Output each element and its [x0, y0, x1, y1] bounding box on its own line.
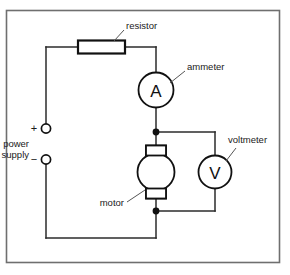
leader-line-motor	[127, 190, 145, 202]
power-supply-minus-sign: −	[31, 153, 37, 165]
leader-line-voltmeter	[226, 148, 236, 161]
resistor-symbol	[78, 41, 125, 54]
label-power-supply-line1: power	[3, 138, 29, 149]
power-supply-negative-terminal	[41, 155, 50, 164]
label-motor: motor	[100, 197, 124, 208]
motor-terminal-top-overlay	[146, 146, 166, 156]
label-voltmeter: voltmeter	[228, 134, 267, 145]
leader-line-ammeter	[170, 71, 185, 83]
ammeter-letter: A	[150, 82, 162, 101]
circuit-diagram-canvas: A V + − resistor ammeter voltmeter moto	[0, 0, 290, 275]
voltmeter-letter: V	[209, 164, 221, 183]
motor-terminal-bottom-overlay	[146, 189, 166, 199]
circuit-wires	[46, 47, 215, 238]
label-resistor: resistor	[126, 20, 157, 31]
junction-dot-bottom	[153, 208, 160, 215]
junction-dot-top	[153, 129, 160, 136]
label-power-supply-line2: supply	[2, 149, 30, 160]
label-ammeter: ammeter	[187, 61, 224, 72]
power-supply-positive-terminal	[41, 124, 50, 133]
motor-symbol	[138, 154, 175, 191]
circuit-diagram-svg: A V + − resistor ammeter voltmeter moto	[0, 0, 290, 275]
power-supply-plus-sign: +	[31, 122, 37, 134]
leader-line-resistor	[114, 30, 124, 41]
